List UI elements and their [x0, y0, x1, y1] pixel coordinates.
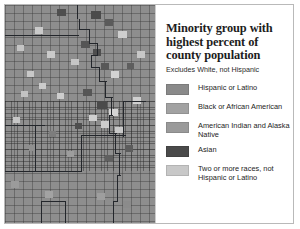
county-patch [57, 9, 66, 16]
state-border [5, 35, 79, 36]
legend-item-label: Hispanic or Latino [198, 83, 257, 93]
legend-swatch-icon [166, 165, 189, 176]
county-patch [118, 31, 127, 38]
river-boundary [79, 29, 89, 30]
state-border [81, 135, 82, 172]
state-border [82, 135, 126, 136]
state-border [124, 101, 146, 102]
river-boundary [109, 115, 110, 133]
figure-subtitle: Excludes White, not Hispanic [166, 65, 290, 74]
county-patch [111, 71, 119, 78]
county-patch [17, 45, 24, 51]
river-boundary [79, 19, 80, 29]
legend-item-american-indian-and-alaska-native[interactable]: American Indian and Alaska Native [166, 121, 292, 139]
legend-item-asian[interactable]: Asian [166, 145, 292, 158]
legend-swatch-icon [166, 84, 189, 95]
river-boundary [119, 153, 120, 175]
river-boundary [111, 97, 112, 115]
choropleth-map[interactable] [5, 5, 155, 223]
county-patch [123, 201, 131, 208]
river-boundary [97, 43, 98, 55]
county-patch [35, 27, 43, 34]
state-border [36, 171, 82, 172]
river-boundary [113, 201, 114, 223]
river-boundary [89, 29, 90, 43]
state-border [41, 201, 42, 223]
county-patch [125, 145, 133, 152]
county-patch [127, 63, 134, 69]
county-patch [47, 51, 55, 58]
county-patch [11, 181, 19, 188]
legend-item-label: Black or African American [198, 102, 282, 112]
legend-item-label: American Indian and Alaska Native [198, 121, 292, 139]
county-patch [137, 51, 145, 58]
county-patch [105, 19, 113, 26]
river-boundary [115, 133, 116, 153]
state-border [5, 125, 45, 126]
legend-panel: Minority group with highest percent of c… [155, 5, 293, 223]
legend-swatch-icon [166, 146, 189, 157]
county-patch [97, 193, 105, 200]
county-patch [13, 117, 20, 123]
state-border [77, 5, 78, 19]
county-patch [101, 63, 109, 70]
county-patch [71, 59, 79, 65]
legend-item-black-or-african-american[interactable]: Black or African American [166, 102, 292, 115]
county-patch [21, 91, 28, 97]
county-patch [45, 191, 53, 198]
figure-title: Minority group with highest percent of c… [166, 22, 288, 63]
river-boundary [105, 81, 106, 97]
county-patch [67, 151, 74, 157]
state-border [5, 171, 35, 172]
county-patch [97, 101, 107, 109]
map-figure: Minority group with highest percent of c… [4, 4, 294, 224]
legend-list: Hispanic or Latino Black or African Amer… [166, 83, 292, 188]
river-boundary [99, 67, 100, 81]
county-patch [83, 89, 92, 96]
legend-swatch-icon [166, 122, 189, 133]
county-patch [39, 83, 46, 89]
county-patch [27, 71, 34, 77]
legend-item-hispanic-or-latino[interactable]: Hispanic or Latino [166, 83, 292, 96]
state-border [65, 201, 66, 223]
legend-item-two-or-more-races[interactable]: Two or more races, not Hispanic or Latin… [166, 164, 292, 182]
legend-item-label: Asian [198, 145, 217, 155]
county-patch [91, 11, 101, 19]
legend-item-label: Two or more races, not Hispanic or Latin… [198, 164, 292, 182]
legend-swatch-icon [166, 103, 189, 114]
county-patch [49, 131, 56, 137]
county-boundaries-texture-dense [5, 101, 155, 171]
county-patch [89, 115, 97, 121]
county-patch [105, 155, 113, 161]
county-patch [57, 93, 64, 99]
state-border [41, 201, 66, 202]
state-border [123, 101, 124, 137]
county-patch [75, 123, 82, 129]
river-boundary [91, 55, 92, 67]
state-border [35, 126, 36, 172]
river-boundary [117, 175, 118, 201]
